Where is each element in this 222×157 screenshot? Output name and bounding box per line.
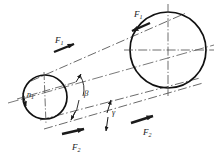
force-f1-upper-group: F1	[132, 9, 150, 31]
f2-left-arrow	[62, 129, 84, 134]
beta-angle-label: β	[83, 88, 89, 98]
gamma-angle-group: γ	[106, 100, 116, 131]
diagram-canvas: n1 β γ	[0, 0, 222, 157]
f1-left-arrow	[54, 44, 74, 52]
belt-drive-diagram: n1 β γ	[0, 0, 222, 157]
lower-belt-strand-a	[40, 78, 200, 120]
f2-right-arrow	[131, 116, 153, 123]
beta-arrow-down	[71, 112, 75, 120]
gamma-angle-label: γ	[112, 108, 116, 117]
small-pulley-vertical-centerline	[44, 72, 46, 124]
force-f2-right-group: F2	[131, 116, 153, 138]
center-axis-line	[8, 45, 214, 103]
upper-belt-strand	[31, 13, 186, 81]
belt-strand-group	[8, 13, 214, 129]
beta-angle-group: β	[71, 74, 89, 120]
f2-left-label: F2	[71, 142, 81, 153]
force-f1-left-group: F1	[54, 35, 74, 52]
f1-upper-label: F1	[133, 9, 143, 20]
force-f2-left-group: F2	[62, 129, 84, 153]
gamma-arrow-down	[106, 117, 108, 131]
f2-right-label: F2	[142, 127, 152, 138]
f1-left-label: F1	[54, 35, 64, 46]
small-pulley-speed-label: n1	[27, 90, 34, 100]
beta-arrow-up	[76, 74, 81, 82]
lower-belt-strand-b	[44, 83, 203, 129]
